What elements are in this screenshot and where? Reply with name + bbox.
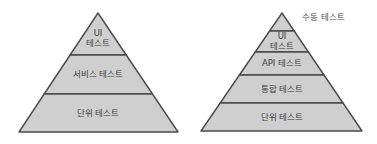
tier-label: 서비스 테스트 bbox=[73, 69, 124, 79]
tier-label: UI bbox=[278, 31, 287, 41]
tier-apex bbox=[270, 13, 295, 31]
tier-label: 단위 테스트 bbox=[261, 112, 304, 122]
tier-label: 단위 테스트 bbox=[77, 108, 120, 118]
extended-test-pyramid: UI테스트API 테스트통합 테스트단위 테스트 bbox=[201, 13, 362, 131]
tier-label: API 테스트 bbox=[262, 58, 302, 68]
tier-label: 통합 테스트 bbox=[261, 84, 304, 94]
test-pyramid-diagram: UI테스트서비스 테스트단위 테스트 UI테스트API 테스트통합 테스트단위 … bbox=[0, 0, 377, 144]
tier-label: 테스트 bbox=[86, 38, 110, 48]
manual-test-label: 수동 테스트 bbox=[302, 12, 345, 22]
basic-test-pyramid: UI테스트서비스 테스트단위 테스트 bbox=[19, 13, 178, 132]
tier-label: 테스트 bbox=[270, 41, 294, 51]
tier-label: UI bbox=[94, 28, 103, 38]
